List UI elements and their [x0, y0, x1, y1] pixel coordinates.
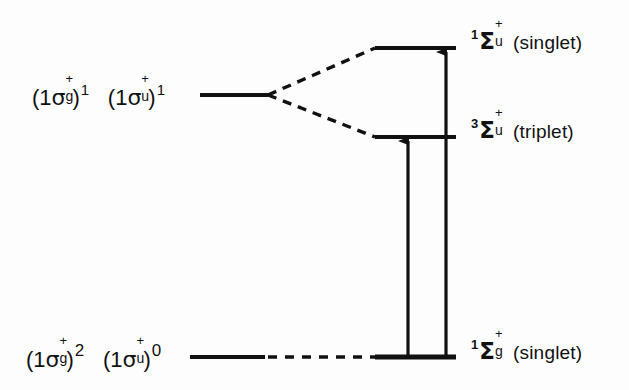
sigma-symbol-g-singlet: Σ: [479, 338, 495, 364]
orbital-1-ground: (1σ+g)2: [26, 347, 84, 372]
orbital-2-ground: (1σ+u)0: [103, 347, 161, 372]
connector-split-to-singlet: [268, 48, 375, 95]
connector-split-to-triplet: [268, 95, 375, 137]
diagram-canvas: [0, 0, 629, 390]
energy-level-diagram: (1σ+g)1 (1σ+u)1 (1σ+g)2 (1σ+u)0 1Σ+u (si…: [0, 0, 629, 390]
label-term-singlet-sigma-u: 1Σ+u (singlet): [471, 28, 582, 53]
label-term-triplet-sigma-u: 3Σ+u (triplet): [471, 117, 574, 142]
label-term-singlet-sigma-g: 1Σ+g (singlet): [471, 338, 582, 363]
term-name-singlet-g: (singlet): [513, 342, 582, 363]
multiplicity-triplet-u: 3: [471, 116, 479, 131]
orbital-1-excited: (1σ+g)1: [32, 85, 89, 110]
orbital-2-excited: (1σ+u)1: [108, 85, 165, 110]
sigma-symbol-u-triplet: Σ: [479, 117, 495, 143]
multiplicity-singlet-g: 1: [471, 337, 479, 352]
term-name-triplet-u: (triplet): [513, 121, 574, 142]
multiplicity-singlet-u: 1: [471, 27, 479, 42]
label-ground-configuration: (1σ+g)2 (1σ+u)0: [26, 345, 161, 371]
term-name-singlet-u: (singlet): [513, 32, 582, 53]
sigma-symbol-u-singlet: Σ: [479, 28, 495, 54]
label-excited-configuration: (1σ+g)1 (1σ+u)1: [32, 83, 165, 109]
